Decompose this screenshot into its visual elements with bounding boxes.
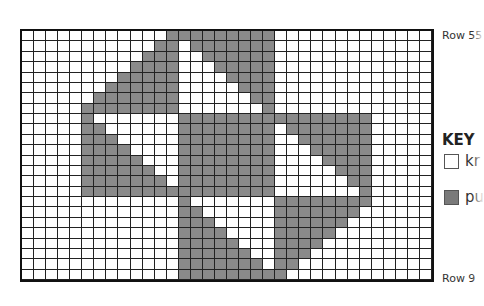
knit-stitch-cell: [396, 93, 408, 103]
purl-stitch-cell: [348, 207, 360, 217]
knit-stitch-cell: [251, 104, 263, 114]
purl-stitch-cell: [263, 187, 275, 197]
purl-stitch-cell: [82, 156, 94, 166]
knit-stitch-cell: [46, 187, 58, 197]
knit-stitch-cell: [118, 197, 130, 207]
purl-stitch-cell: [227, 124, 239, 134]
purl-stitch-cell: [239, 156, 251, 166]
knit-stitch-cell: [372, 249, 384, 259]
knit-stitch-cell: [131, 249, 143, 259]
knit-stitch-cell: [143, 239, 155, 249]
knit-stitch-cell: [82, 52, 94, 62]
knit-stitch-cell: [299, 73, 311, 83]
purl-stitch-cell: [155, 41, 167, 51]
purl-stitch-cell: [106, 83, 118, 93]
knit-stitch-cell: [348, 93, 360, 103]
knit-stitch-cell: [131, 124, 143, 134]
purl-stitch-cell: [203, 249, 215, 259]
knit-stitch-cell: [106, 52, 118, 62]
knit-stitch-cell: [408, 104, 420, 114]
purl-stitch-cell: [143, 176, 155, 186]
knit-stitch-cell: [167, 249, 179, 259]
knit-stitch-cell: [22, 218, 34, 228]
knit-stitch-cell: [155, 270, 167, 280]
purl-stitch-cell: [179, 228, 191, 238]
knit-stitch-cell: [408, 239, 420, 249]
knit-stitch-cell: [348, 62, 360, 72]
knit-stitch-cell: [299, 62, 311, 72]
knit-stitch-cell: [143, 145, 155, 155]
purl-stitch-cell: [311, 135, 323, 145]
knit-stitch-cell: [251, 197, 263, 207]
purl-stitch-cell: [263, 156, 275, 166]
knit-stitch-cell: [420, 207, 432, 217]
knit-stitch-cell: [408, 156, 420, 166]
purl-stitch-cell: [348, 135, 360, 145]
knit-stitch-cell: [348, 73, 360, 83]
purl-stitch-cell: [263, 93, 275, 103]
purl-stitch-cell: [118, 166, 130, 176]
knit-stitch-cell: [348, 228, 360, 238]
purl-stitch-cell: [239, 249, 251, 259]
knit-stitch-cell: [46, 218, 58, 228]
knit-stitch-cell: [203, 104, 215, 114]
knit-stitch-cell: [299, 93, 311, 103]
purl-stitch-cell: [263, 166, 275, 176]
purl-stitch-cell: [131, 62, 143, 72]
purl-stitch-cell: [227, 187, 239, 197]
knit-stitch-cell: [372, 270, 384, 280]
purl-stitch-cell: [287, 239, 299, 249]
knit-stitch-cell: [46, 31, 58, 41]
purl-stitch-cell: [131, 187, 143, 197]
purl-stitch-cell: [336, 218, 348, 228]
knit-stitch-cell: [384, 228, 396, 238]
purl-stitch-cell: [227, 166, 239, 176]
knit-stitch-cell: [58, 156, 70, 166]
purl-stitch-cell: [323, 207, 335, 217]
purl-stitch-cell: [215, 62, 227, 72]
knit-stitch-cell: [336, 93, 348, 103]
knit-stitch-cell: [82, 31, 94, 41]
knit-stitch-cell: [203, 93, 215, 103]
knit-stitch-cell: [215, 73, 227, 83]
knit-stitch-cell: [396, 218, 408, 228]
knit-stitch-cell: [34, 166, 46, 176]
purl-stitch-cell: [348, 156, 360, 166]
knit-stitch-cell: [70, 228, 82, 238]
knit-stitch-cell: [143, 31, 155, 41]
knit-stitch-cell: [118, 31, 130, 41]
knit-stitch-cell: [420, 239, 432, 249]
purl-stitch-cell: [251, 187, 263, 197]
purl-stitch-cell: [131, 156, 143, 166]
purl-stitch-cell: [203, 270, 215, 280]
purl-stitch-cell: [106, 176, 118, 186]
knit-stitch-cell: [396, 249, 408, 259]
knit-stitch-cell: [215, 207, 227, 217]
knit-stitch-cell: [360, 93, 372, 103]
knit-stitch-cell: [167, 145, 179, 155]
knit-stitch-cell: [82, 259, 94, 269]
purl-stitch-cell: [82, 176, 94, 186]
knit-stitch-cell: [46, 249, 58, 259]
purl-stitch-cell: [287, 249, 299, 259]
purl-stitch-cell: [239, 135, 251, 145]
purl-stitch-cell: [239, 270, 251, 280]
knit-stitch-cell: [275, 41, 287, 51]
knit-stitch-cell: [215, 93, 227, 103]
knit-stitch-cell: [311, 176, 323, 186]
knit-stitch-cell: [106, 62, 118, 72]
knit-stitch-cell: [70, 41, 82, 51]
knit-stitch-cell: [372, 135, 384, 145]
knit-stitch-cell: [191, 62, 203, 72]
purl-stitch-cell: [94, 135, 106, 145]
knit-stitch-cell: [311, 41, 323, 51]
knit-stitch-cell: [336, 83, 348, 93]
purl-stitch-cell: [263, 145, 275, 155]
knit-stitch-cell: [167, 166, 179, 176]
knit-stitch-cell: [263, 207, 275, 217]
knit-stitch-cell: [70, 93, 82, 103]
knit-stitch-cell: [408, 207, 420, 217]
knit-stitch-cell: [275, 156, 287, 166]
knit-stitch-cell: [275, 176, 287, 186]
knit-stitch-cell: [58, 52, 70, 62]
